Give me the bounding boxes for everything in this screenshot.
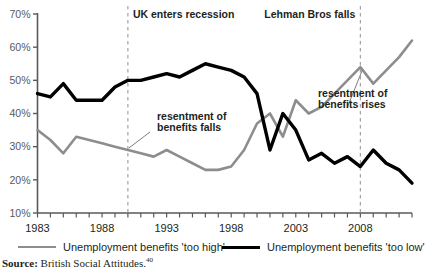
y-axis-tick-label: 20%	[9, 174, 30, 186]
y-axis-tick-label: 40%	[9, 107, 30, 119]
x-axis-tick-label: 1993	[154, 222, 178, 234]
source-text: British Social Attitudes.	[38, 257, 146, 269]
x-axis-tick-label: 1998	[219, 222, 243, 234]
event-label-1990: UK enters recession	[133, 8, 235, 20]
legend-label-too-high: Unemployment benefits 'too high'	[63, 241, 225, 253]
chart-legend: Unemployment benefits 'too high' Unemplo…	[0, 239, 418, 255]
y-axis-tick-label: 30%	[9, 140, 30, 152]
y-axis-tick-label: 70%	[9, 8, 30, 20]
annotation-text: benefits falls	[157, 121, 221, 133]
x-axis-tick-label: 2003	[284, 222, 308, 234]
annotation-text: benefits rises	[318, 98, 386, 110]
x-axis-tick-label: 1988	[90, 222, 114, 234]
y-axis-tick-label: 10%	[9, 207, 30, 219]
legend-swatch-too-low-icon	[222, 246, 260, 249]
legend-item-too-low: Unemployment benefits 'too low'	[222, 239, 425, 255]
legend-label-too-low: Unemployment benefits 'too low'	[267, 241, 425, 253]
source-footnote-marker: 40	[146, 256, 153, 264]
x-axis-tick-label: 2008	[348, 222, 372, 234]
legend-swatch-too-high-icon	[18, 246, 56, 248]
source-label: Source:	[2, 257, 38, 269]
y-axis-tick-label: 60%	[9, 41, 30, 53]
x-axis-tick-label: 1983	[25, 222, 49, 234]
annotation-leader-line	[129, 132, 150, 148]
event-label-2008: Lehman Bros falls	[264, 8, 355, 20]
legend-item-too-high: Unemployment benefits 'too high'	[18, 239, 225, 255]
series-line-too-low	[38, 64, 413, 183]
line-chart-plot: 10%20%30%40%50%60%70%1983198819931998200…	[0, 0, 418, 240]
source-line: Source: British Social Attitudes.40	[2, 254, 416, 268]
y-axis-tick-label: 50%	[9, 74, 30, 86]
